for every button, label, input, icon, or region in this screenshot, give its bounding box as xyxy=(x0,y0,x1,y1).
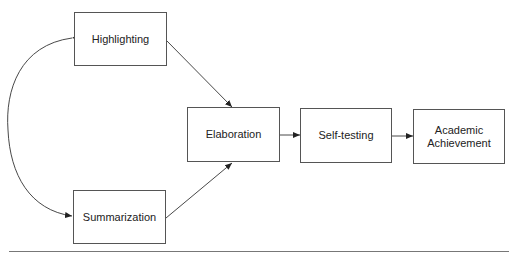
node-summarization: Summarization xyxy=(73,190,166,244)
node-label: Self-testing xyxy=(318,129,373,142)
node-label: Highlighting xyxy=(92,33,149,46)
node-highlighting: Highlighting xyxy=(74,12,167,66)
node-label-line-2: Achievement xyxy=(427,137,491,150)
node-elaboration: Elaboration xyxy=(187,107,280,162)
node-academic-achievement: Academic Achievement xyxy=(413,109,505,164)
arrow-highlighting-elaboration xyxy=(166,40,232,107)
node-label: Summarization xyxy=(83,211,156,224)
correlation-arrow xyxy=(8,38,72,216)
node-label: Elaboration xyxy=(206,128,262,141)
node-self-testing: Self-testing xyxy=(300,108,392,163)
arrow-summarization-elaboration xyxy=(166,163,232,218)
caption-divider xyxy=(9,251,509,252)
node-label-line-1: Academic xyxy=(435,124,483,137)
